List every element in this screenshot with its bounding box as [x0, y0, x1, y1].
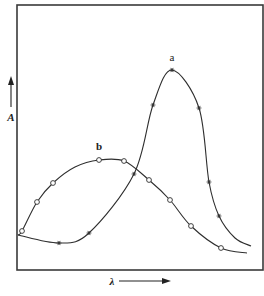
open-circle-marker-icon	[97, 158, 102, 163]
x-axis-arrowhead-icon	[162, 278, 171, 284]
asterisk-marker-icon	[170, 68, 175, 72]
open-circle-marker-icon	[168, 198, 173, 203]
x-axis-label: λ	[109, 275, 115, 287]
curves-group	[18, 70, 251, 253]
curve-a-label: a	[170, 51, 175, 63]
y-axis-arrowhead-icon	[8, 76, 14, 85]
open-circle-marker-icon	[51, 181, 56, 186]
open-circle-marker-icon	[147, 178, 152, 183]
open-circle-marker-icon	[35, 200, 40, 205]
curve-a	[18, 70, 251, 246]
curve-b	[18, 159, 247, 253]
open-circle-marker-icon	[122, 159, 127, 164]
asterisk-marker-icon	[132, 172, 137, 176]
curve-b-label: b	[96, 140, 102, 152]
asterisk-marker-icon	[57, 241, 62, 245]
absorption-spectrum-diagram: a b A λ	[0, 0, 264, 296]
open-circle-marker-icon	[219, 246, 224, 251]
plot-frame	[17, 5, 263, 270]
open-circle-marker-icon	[20, 229, 25, 234]
y-axis-label: A	[6, 111, 14, 123]
asterisk-marker-icon	[217, 214, 222, 218]
open-circle-marker-icon	[189, 224, 194, 229]
markers-group	[20, 68, 224, 250]
